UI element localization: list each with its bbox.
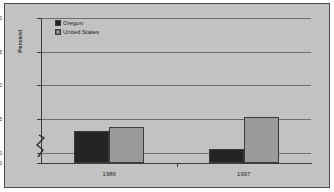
chart-figure: Percent 06065707580 19891997 OregonUnite… [0,0,334,192]
x-axis-label-1989: 1989 [103,171,116,177]
y-axis-title: Percent [17,0,23,53]
y-tick-label: 65 [0,117,4,122]
x-tick-mark [177,164,178,167]
y-tick-mark [37,119,41,120]
legend-item-oregon[interactable]: Oregon [55,19,99,27]
y-tick-label: 80 [0,16,4,21]
legend-swatch-icon [55,29,61,35]
y-tick-label: 70 [0,83,4,88]
gridline [42,85,311,86]
bar-oregon-1989[interactable] [74,131,109,163]
y-tick-label: 0 [0,161,4,166]
y-tick-label: 60 [0,150,4,155]
y-tick-label: 75 [0,49,4,54]
legend-label: Oregon [63,20,83,26]
x-axis-label-1997: 1997 [237,171,250,177]
bar-united-states-1997[interactable] [244,117,279,163]
legend-swatch-icon [55,20,61,26]
gridline [42,52,311,53]
plot-area [42,18,311,163]
legend-item-united-states[interactable]: United States [55,28,99,36]
legend-label: United States [63,29,99,35]
y-tick-mark [37,52,41,53]
y-tick-mark [37,85,41,86]
bar-chart: Percent 06065707580 19891997 OregonUnite… [4,3,330,188]
bar-oregon-1997[interactable] [209,149,244,163]
y-tick-mark [37,163,41,164]
bar-united-states-1989[interactable] [109,127,144,163]
y-tick-mark [37,18,41,19]
chart-legend: OregonUnited States [54,18,101,38]
